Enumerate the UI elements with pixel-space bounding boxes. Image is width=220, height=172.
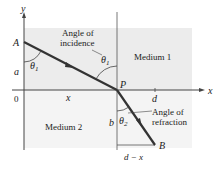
x-axis-label: x (207, 85, 213, 96)
point-B-label: B (159, 140, 165, 151)
incidence-label-line2: incidence (60, 38, 94, 48)
segment-a-label: a (14, 66, 19, 77)
segment-d-minus-x-label: d − x (124, 152, 143, 162)
segment-x-label: x (65, 92, 71, 103)
origin-label: 0 (14, 94, 19, 104)
medium-2-label: Medium 2 (45, 122, 82, 132)
incidence-label-line1: Angle of (62, 28, 94, 38)
refraction-label-line2: refraction (152, 117, 187, 127)
medium-1-label: Medium 1 (134, 52, 171, 62)
y-axis-label: y (20, 3, 26, 14)
point-A-label: A (12, 37, 20, 48)
refraction-label-line1: Angle of (152, 107, 184, 117)
x-axis-arrow-icon (199, 88, 205, 92)
refraction-diagram: y x 0 A P B a x d b d − x Medium 1 Mediu… (0, 0, 220, 172)
point-P-label: P (119, 79, 126, 90)
segment-b-label: b (109, 117, 114, 128)
